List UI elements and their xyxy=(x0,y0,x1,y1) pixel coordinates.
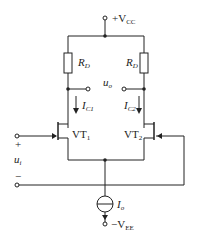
plus-sign: + xyxy=(15,138,21,150)
ui-label: ui xyxy=(14,153,22,167)
input-minus-terminal xyxy=(15,183,19,187)
uo-label: uo xyxy=(103,76,113,90)
vcc-label: +VCC xyxy=(112,12,136,26)
vcc-terminal xyxy=(103,16,107,20)
ic2-label: IC2 xyxy=(123,99,136,113)
rd-right-label: RD xyxy=(125,56,138,70)
vt1-label: VT1 xyxy=(72,128,91,142)
vt2-label: VT2 xyxy=(124,128,143,142)
vee-terminal xyxy=(103,222,107,226)
minus-sign: − xyxy=(15,170,21,182)
rd-left-label: RD xyxy=(77,56,90,70)
rd-left-resistor xyxy=(64,53,72,73)
ic1-label: IC1 xyxy=(81,99,94,113)
io-label: Io xyxy=(116,198,125,212)
differential-amplifier-circuit: +VCC RD RD uo IC1 IC2 VT1 VT2 + ui − Io … xyxy=(0,0,198,246)
rd-right-resistor xyxy=(140,53,148,73)
vee-label: −VEE xyxy=(111,218,134,232)
